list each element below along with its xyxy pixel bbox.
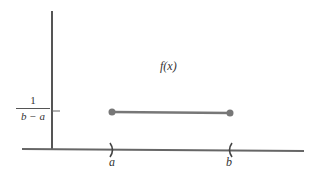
segment-endpoint-b <box>227 110 234 117</box>
x-axis <box>22 149 304 151</box>
segment-endpoint-a <box>109 109 116 116</box>
function-label: f(x) <box>160 60 177 72</box>
fraction-bar <box>16 108 50 109</box>
y-tick-denominator: b − a <box>16 111 50 122</box>
y-tick-numerator: 1 <box>16 95 50 106</box>
x-label-a: a <box>109 156 115 168</box>
y-tick-label: 1 b − a <box>16 95 50 122</box>
uniform-distribution-diagram <box>0 0 322 184</box>
density-segment <box>112 112 230 113</box>
x-label-b: b <box>226 156 232 168</box>
